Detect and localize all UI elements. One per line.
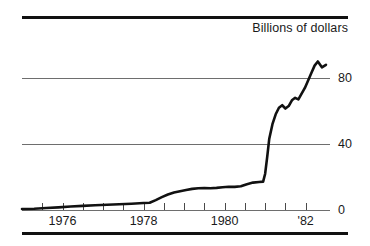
y-tick-label-40: 40 <box>338 137 352 151</box>
x-tick-7 <box>184 203 185 210</box>
x-tick-11 <box>265 203 266 210</box>
gridline-40 <box>22 144 330 145</box>
x-tick-label-1976: 1976 <box>49 214 77 228</box>
x-tick-5 <box>144 203 145 210</box>
x-tick-label-82: '82 <box>298 214 314 228</box>
x-tick-12 <box>285 203 286 210</box>
bottom-rule <box>22 232 348 235</box>
x-tick-2 <box>83 203 84 210</box>
x-tick-6 <box>164 203 165 210</box>
x-tick-3 <box>103 203 104 210</box>
x-tick-label-1980: 1980 <box>211 214 239 228</box>
y-tick-label-80: 80 <box>338 71 352 85</box>
plot-area <box>22 45 330 210</box>
x-tick-13 <box>306 203 307 210</box>
y-tick-label-0: 0 <box>338 203 345 217</box>
x-tick-10 <box>245 203 246 210</box>
x-tick-label-1978: 1978 <box>130 214 158 228</box>
x-tick-1 <box>63 203 64 210</box>
top-rule <box>22 16 348 19</box>
chart-header-label: Billions of dollars <box>252 21 348 35</box>
gridline-80 <box>22 78 330 79</box>
x-tick-4 <box>123 203 124 210</box>
gridline-0 <box>22 210 330 211</box>
x-tick-8 <box>204 203 205 210</box>
x-tick-9 <box>225 203 226 210</box>
x-tick-0 <box>42 203 43 210</box>
chart-figure: Billions of dollars 80400 197619781980'8… <box>0 0 370 246</box>
